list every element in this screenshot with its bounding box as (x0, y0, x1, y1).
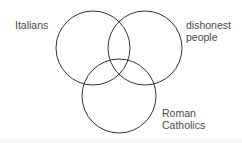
label-italians: Italians (15, 19, 48, 31)
label-line: Catholics (162, 119, 205, 131)
label-line: people (186, 31, 231, 43)
label-line: dishonest (186, 19, 231, 31)
label-line: Roman (162, 107, 205, 119)
label-line: Italians (15, 19, 48, 31)
circle-roman-catholics (82, 59, 156, 133)
label-roman-catholics: Roman Catholics (162, 107, 205, 131)
circle-dishonest-people (108, 11, 182, 85)
label-dishonest-people: dishonest people (186, 19, 231, 43)
